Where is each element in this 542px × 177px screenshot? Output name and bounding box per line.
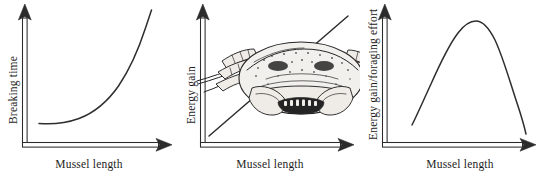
energy-gain-panel: Energy gain Mussel length: [178, 0, 360, 177]
x-axis: [383, 138, 537, 151]
mussel-foraging-figure: Breaking time Mussel length: [0, 0, 542, 177]
x-axis: [201, 138, 355, 151]
x-axis-label: Mussel length: [55, 158, 122, 171]
breaking-time-panel: Breaking time Mussel length: [0, 0, 178, 177]
y-axis: [196, 4, 209, 145]
x-axis: [23, 138, 173, 151]
y-axis: [18, 4, 31, 145]
x-axis-label: Mussel length: [236, 158, 303, 171]
crab-illustration: [197, 42, 360, 120]
x-axis-label: Mussel length: [426, 158, 493, 171]
y-axis-label: Breaking time: [7, 56, 20, 124]
profitability-panel: Energy gain/foraging effort Mussel lengt…: [360, 0, 542, 177]
breaking-time-curve: [39, 10, 152, 124]
y-axis: [378, 4, 391, 145]
y-axis-label: Energy gain/foraging effort: [367, 8, 380, 140]
profitability-curve: [412, 21, 526, 134]
y-axis-label: Energy gain: [185, 66, 198, 124]
